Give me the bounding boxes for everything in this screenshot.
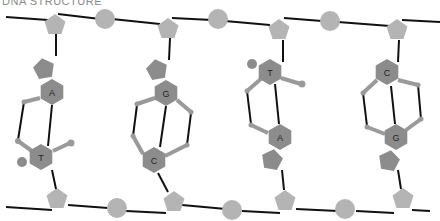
base-label-bottom: C bbox=[151, 156, 158, 166]
phosphate-circle-icon bbox=[107, 198, 127, 218]
sugar-pentagon-icon bbox=[387, 19, 408, 39]
sugar-pentagon-icon bbox=[269, 19, 290, 39]
base-pentagon-icon bbox=[377, 148, 401, 171]
base-label-bottom: G bbox=[392, 133, 399, 143]
base-label-bottom: T bbox=[38, 153, 44, 163]
sugar-pentagon-icon bbox=[158, 18, 179, 38]
base-label-top: T bbox=[267, 68, 273, 78]
phosphate-circle-icon bbox=[320, 11, 340, 31]
base-label-bottom: A bbox=[277, 133, 283, 143]
base-pentagon-icon bbox=[32, 56, 56, 79]
dna-diagram: A T G C T bbox=[0, 0, 440, 221]
bottom-phosphate-circles bbox=[107, 198, 355, 220]
phosphate-circle-icon bbox=[222, 200, 242, 220]
atom-dot-icon bbox=[247, 59, 257, 69]
bottom-backbone bbox=[6, 205, 430, 213]
sugar-pentagon-icon bbox=[393, 188, 414, 208]
phosphate-circle-icon bbox=[335, 199, 355, 219]
sugar-pentagon-icon bbox=[275, 190, 296, 210]
base-pair-1: A T bbox=[15, 34, 75, 189]
phosphate-circle-icon bbox=[208, 9, 228, 29]
base-pentagon-icon bbox=[145, 57, 169, 80]
base-label-top: A bbox=[49, 88, 55, 98]
sugar-pentagon-icon bbox=[47, 188, 68, 208]
base-pentagon-icon bbox=[260, 147, 284, 170]
base-pair-4: C G bbox=[361, 40, 424, 189]
base-pair-2: G C bbox=[131, 38, 194, 192]
base-label-top: C bbox=[384, 68, 391, 78]
sugar-pentagon-icon bbox=[45, 14, 66, 34]
sugar-pentagon-icon bbox=[164, 191, 185, 211]
phosphate-circle-icon bbox=[95, 9, 115, 29]
base-pair-3: T A bbox=[245, 40, 306, 190]
base-label-top: G bbox=[162, 89, 169, 99]
atom-dot-icon bbox=[17, 157, 27, 167]
